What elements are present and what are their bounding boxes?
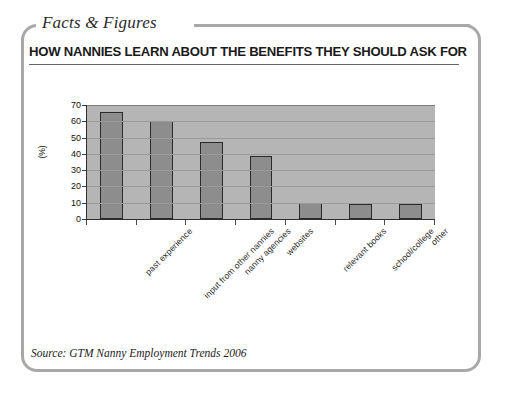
y-tick-label: 40 <box>59 149 81 158</box>
x-category-label: school/college <box>389 226 436 273</box>
gridline <box>87 203 435 204</box>
bar[interactable] <box>299 203 322 219</box>
y-tick-label: 20 <box>59 182 81 191</box>
title-underline <box>29 64 459 65</box>
y-tick-label: 0 <box>59 215 81 224</box>
y-tick-label: 30 <box>59 166 81 175</box>
plot-area <box>86 105 435 220</box>
y-tick-mark <box>82 219 86 220</box>
source-note: Source: GTM Nanny Employment Trends 2006 <box>31 347 246 359</box>
x-tick-mark <box>235 220 236 225</box>
y-tick-label: 10 <box>59 198 81 207</box>
panel-eyebrow: Facts & Figures <box>40 13 163 33</box>
x-tick-mark <box>384 220 385 225</box>
y-tick-label: 50 <box>59 133 81 142</box>
x-category-label: relevant books <box>341 226 389 274</box>
y-axis-label: (%) <box>37 145 47 158</box>
x-tick-mark <box>185 220 186 225</box>
y-tick-mark <box>82 121 86 122</box>
x-tick-mark <box>136 220 137 225</box>
y-axis-tick-labels: 010203040506070 <box>59 105 81 219</box>
eyebrow-rule <box>194 24 470 27</box>
gridline <box>87 138 435 139</box>
y-tick-mark <box>82 154 86 155</box>
y-tick-label: 60 <box>59 117 81 126</box>
y-tick-mark <box>82 105 86 106</box>
x-category-label: input from other nannies <box>202 226 276 300</box>
gridline <box>87 170 435 171</box>
gridline <box>87 121 435 122</box>
y-tick-label: 70 <box>59 101 81 110</box>
gridline <box>87 186 435 187</box>
x-tick-mark <box>285 220 286 225</box>
page-title: HOW NANNIES LEARN ABOUT THE BENEFITS THE… <box>29 44 438 59</box>
bar[interactable] <box>399 204 422 219</box>
gridline <box>87 154 435 155</box>
bar[interactable] <box>349 204 372 219</box>
facts-and-figures-panel: Facts & Figures HOW NANNIES LEARN ABOUT … <box>0 0 505 398</box>
x-category-label: past experience <box>143 226 194 277</box>
x-tick-mark <box>335 220 336 225</box>
y-tick-mark <box>82 170 86 171</box>
x-tick-mark <box>434 220 435 225</box>
bar-chart: (%) 010203040506070 past experienceinput… <box>29 92 469 242</box>
y-tick-mark <box>82 138 86 139</box>
x-axis-category-labels: past experienceinput from other nanniesn… <box>86 226 434 326</box>
x-tick-mark <box>86 220 87 225</box>
y-tick-mark <box>82 203 86 204</box>
y-tick-mark <box>82 186 86 187</box>
